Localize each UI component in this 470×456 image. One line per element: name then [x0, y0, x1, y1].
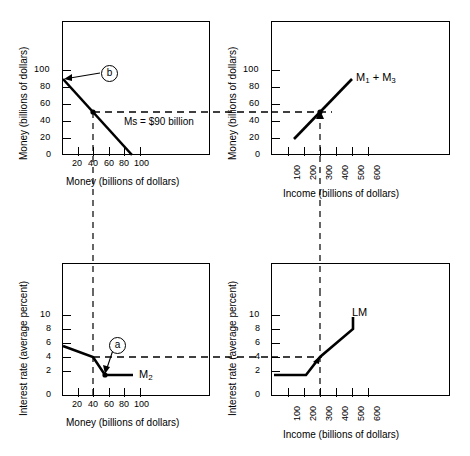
curve-label-lm: LM: [352, 306, 367, 318]
curves-bottom-right: [0, 0, 470, 456]
lm-curve: [274, 317, 353, 375]
